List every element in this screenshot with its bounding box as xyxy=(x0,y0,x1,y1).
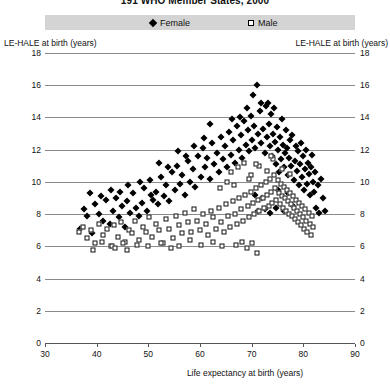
data-point-female xyxy=(155,159,162,166)
data-point-male xyxy=(183,210,188,215)
data-point-female xyxy=(171,186,178,193)
data-point-female xyxy=(256,107,263,114)
data-point-female xyxy=(165,198,172,205)
x-axis-tick-label: 80 xyxy=(299,349,308,359)
y-axis-label-left: LE-HALE at birth (years) xyxy=(4,38,97,48)
data-point-female xyxy=(273,124,280,131)
data-point-male xyxy=(76,229,81,234)
y-axis-tick-label: 18 xyxy=(360,49,369,58)
gridline xyxy=(45,117,355,118)
data-point-male xyxy=(124,247,129,252)
y-axis-tick-label: 12 xyxy=(360,146,369,155)
data-point-female xyxy=(117,188,124,195)
x-axis-tick-label: 70 xyxy=(247,349,256,359)
data-point-male xyxy=(187,237,192,242)
legend-item-male: Male xyxy=(248,15,278,30)
legend-item-female: Female xyxy=(150,15,190,30)
data-point-male xyxy=(219,220,224,225)
data-point-female xyxy=(124,198,131,205)
data-point-female xyxy=(227,151,234,158)
data-point-male xyxy=(105,226,110,231)
data-point-male xyxy=(198,228,203,233)
data-point-female xyxy=(204,154,211,161)
y-axis-tick-label: 8 xyxy=(36,210,41,219)
data-point-male xyxy=(199,242,204,247)
data-point-male xyxy=(189,229,194,234)
legend-label-female: Female xyxy=(160,18,190,28)
data-point-female xyxy=(207,120,214,127)
data-point-male xyxy=(93,241,98,246)
data-point-male xyxy=(254,250,259,255)
data-point-male xyxy=(147,215,152,220)
data-point-male xyxy=(237,196,242,201)
data-point-female xyxy=(201,135,208,142)
diamond-marker-icon xyxy=(149,18,157,26)
data-point-female xyxy=(155,201,162,208)
y-axis-tick-label: 0 xyxy=(36,339,41,348)
data-point-female xyxy=(208,140,215,147)
y-axis-tick-label: 8 xyxy=(360,210,365,219)
data-point-male xyxy=(179,231,184,236)
data-point-male xyxy=(217,186,222,191)
data-point-male xyxy=(159,241,164,246)
gridline xyxy=(45,311,355,312)
data-point-female xyxy=(118,203,125,210)
y-axis-tick-label: 6 xyxy=(36,242,41,251)
data-point-male xyxy=(309,213,314,218)
data-point-male xyxy=(177,244,182,249)
data-point-male xyxy=(168,245,173,250)
data-point-female xyxy=(217,133,224,140)
data-point-male xyxy=(81,225,86,230)
data-point-male xyxy=(167,226,172,231)
x-axis-tick-label: 40 xyxy=(92,349,101,359)
data-point-male xyxy=(216,205,221,210)
data-point-male xyxy=(97,221,102,226)
data-point-female xyxy=(258,140,265,147)
data-point-male xyxy=(90,247,95,252)
data-point-female xyxy=(132,204,139,211)
data-point-male xyxy=(253,162,258,167)
data-point-female xyxy=(237,132,244,139)
data-point-female xyxy=(265,120,272,127)
data-point-male xyxy=(112,223,117,228)
y-axis-tick-label: 12 xyxy=(32,146,41,155)
data-point-female xyxy=(192,183,199,190)
data-point-male xyxy=(170,236,175,241)
data-point-female xyxy=(293,167,300,174)
data-point-male xyxy=(310,225,315,230)
data-point-male xyxy=(226,213,231,218)
data-point-male xyxy=(234,242,239,247)
legend-label-male: Male xyxy=(258,18,278,28)
data-point-male xyxy=(214,226,219,231)
data-point-male xyxy=(88,228,93,233)
data-point-female xyxy=(91,201,98,208)
data-point-male xyxy=(186,220,191,225)
data-point-male xyxy=(242,160,247,165)
data-point-female xyxy=(215,169,222,176)
data-point-female xyxy=(244,127,251,134)
plot-area: 002244668810101212141416161818 xyxy=(45,53,355,343)
data-point-female xyxy=(253,82,260,89)
data-point-male xyxy=(268,154,273,159)
y-axis-tick-label: 6 xyxy=(360,242,365,251)
data-point-male xyxy=(224,179,229,184)
data-point-male xyxy=(143,229,148,234)
data-point-male xyxy=(150,234,155,239)
data-point-male xyxy=(133,218,138,223)
data-point-male xyxy=(232,183,237,188)
x-axis-tick-mark xyxy=(148,344,149,347)
x-axis-tick-label: 50 xyxy=(144,349,153,359)
data-point-female xyxy=(249,136,256,143)
data-point-female xyxy=(225,128,232,135)
data-point-male xyxy=(308,233,313,238)
data-point-male xyxy=(280,167,285,172)
data-point-male xyxy=(231,199,236,204)
y-axis-tick-label: 16 xyxy=(360,81,369,90)
y-axis-tick-label: 14 xyxy=(360,113,369,122)
x-axis-tick-label: 90 xyxy=(350,349,359,359)
data-point-female xyxy=(174,162,181,169)
data-point-male xyxy=(235,221,240,226)
y-axis-tick-label: 18 xyxy=(32,49,41,58)
y-axis-tick-label: 14 xyxy=(32,113,41,122)
data-point-female xyxy=(138,199,145,206)
